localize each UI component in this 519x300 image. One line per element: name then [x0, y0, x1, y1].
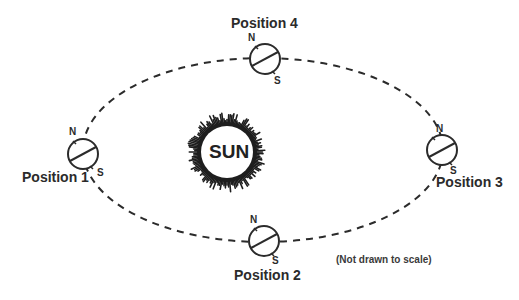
- position-1-south-label: S: [97, 168, 104, 178]
- position-1-north-label: N: [69, 127, 76, 137]
- position-2-label: Position 2: [234, 268, 301, 282]
- position-3-south-label: S: [450, 166, 457, 176]
- earth-position-4: [250, 44, 280, 74]
- earth-position-1: [68, 139, 98, 169]
- position-4-south-label: S: [274, 76, 281, 86]
- position-1-label: Position 1: [22, 170, 89, 184]
- position-3-label: Position 3: [436, 175, 503, 189]
- position-3-north-label: N: [436, 124, 443, 134]
- earth-position-3: [427, 135, 457, 165]
- position-2-south-label: S: [272, 256, 279, 266]
- position-4-label: Position 4: [231, 16, 298, 30]
- orbit-diagram: [0, 0, 519, 300]
- position-2-north-label: N: [250, 215, 257, 225]
- sun-label: SUN: [209, 142, 249, 161]
- position-4-north-label: N: [248, 33, 255, 43]
- earth-position-2: [249, 226, 279, 256]
- scale-note: (Not drawn to scale): [336, 255, 432, 265]
